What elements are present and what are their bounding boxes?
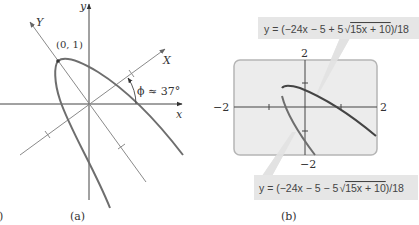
upper-equation: y = (−24x − 5 + 5√15x + 10)/18 — [264, 23, 409, 35]
lower-eq-suffix: )/18 — [386, 182, 404, 194]
x-axis-label: x — [176, 108, 183, 121]
panel-b-caption: (b) — [281, 210, 297, 223]
lower-eq-prefix: y = (−24x − 5 − 5 — [259, 182, 339, 194]
panel-a: y x Y X (0, 1) ϕ ≈ 37° (a) ) — [0, 0, 183, 223]
lower-equation: y = (−24x − 5 − 5√15x + 10)/18 — [259, 182, 404, 194]
tick-mark — [45, 131, 50, 138]
left-fragment: ) — [0, 210, 3, 223]
rotated-x-axis — [20, 49, 165, 155]
angle-label: ϕ ≈ 37° — [137, 85, 180, 98]
rotated-x-label: X — [162, 54, 172, 67]
xmin-label: −2 — [213, 101, 229, 114]
tick-mark — [129, 70, 134, 77]
rotated-y-label: Y — [36, 16, 45, 29]
panel-a-caption: (a) — [70, 210, 85, 223]
upper-eq-suffix: )/18 — [391, 23, 409, 35]
vertex-point — [56, 59, 60, 63]
parabola-curve — [55, 59, 183, 208]
y-axis-label: y — [79, 0, 87, 13]
upper-eq-radicand: 15x + 10 — [350, 23, 391, 35]
ymin-label: −2 — [300, 158, 316, 171]
lower-eq-radicand: 15x + 10 — [345, 182, 386, 194]
rotated-y-axis — [30, 22, 146, 182]
figure-canvas: y x Y X (0, 1) ϕ ≈ 37° (a) ) 2 −2 −2 — [0, 0, 419, 225]
panel-b: 2 −2 −2 2 y = (−24x − 5 + 5√15x + 10)/18… — [213, 17, 419, 223]
upper-eq-prefix: y = (−24x − 5 + 5 — [264, 23, 344, 35]
xmax-label: 2 — [380, 101, 387, 114]
vertex-label: (0, 1) — [56, 39, 83, 50]
ymax-label: 2 — [301, 47, 308, 60]
